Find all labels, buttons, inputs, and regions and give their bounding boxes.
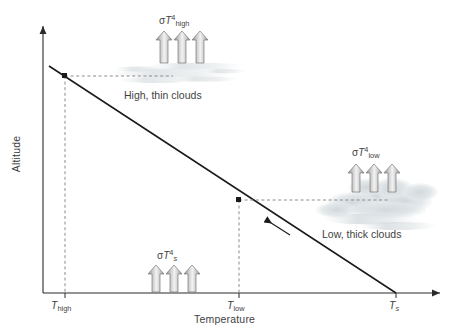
y-axis-title: Altitude [10,124,22,184]
subscript-low: low [368,151,379,160]
tick-sub-t-high: high [57,304,71,313]
marker-high-cloud-level [62,73,67,78]
tick-sub-t-s: s [395,304,399,313]
x-axis-title: Temperature [194,313,255,325]
tick-label-t-low: Tlow [227,299,245,313]
emission-arrows-surface [148,265,200,292]
lapse-rate-direction-arrow [268,221,290,235]
flux-label-high: σT4high [159,13,189,28]
tick-label-t-s: Ts [389,299,399,313]
tick-sub-t-low: low [233,304,244,313]
high-thin-cloud-graphic [110,63,246,83]
marker-low-cloud-level [236,197,241,202]
flux-label-surface: σT4s [157,248,177,263]
annotation-low-clouds: Low, thick clouds [322,228,401,240]
emission-arrows-low [348,164,400,192]
subscript-high: high [175,19,189,28]
emission-arrows-high [156,31,208,63]
figure-canvas: σT4high σT4low σT4s High, thin clouds Lo… [0,0,457,330]
tick-label-t-high: Thigh [51,299,71,313]
subscript-surface: s [173,254,177,263]
annotation-high-clouds: High, thin clouds [124,89,202,101]
lapse-rate-line [49,66,396,293]
flux-label-low: σT4low [352,145,380,160]
diagram-svg [0,0,457,330]
